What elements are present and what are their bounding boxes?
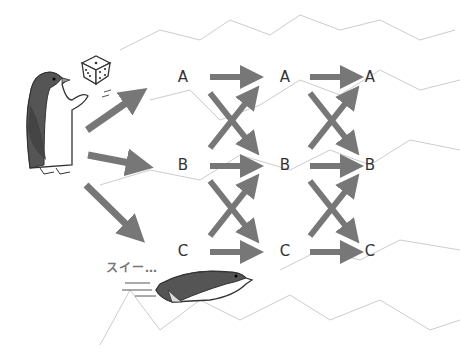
dice-icon: [82, 56, 110, 84]
state-label-b-col2: B: [275, 156, 295, 174]
state-label-b-col1: B: [173, 156, 193, 174]
state-label-a-col2: A: [275, 68, 295, 86]
initial-arrows: [86, 96, 140, 233]
state-label-a-col1: A: [173, 68, 193, 86]
standing-penguin-icon: [27, 72, 88, 174]
state-label-b-col3: B: [360, 156, 380, 174]
sound-effect-text: スイー…: [106, 258, 158, 275]
state-label-c-col2: C: [275, 242, 295, 260]
speed-lines: [122, 283, 156, 296]
sliding-penguin-icon: [156, 271, 252, 302]
state-label-a-col3: A: [360, 68, 380, 86]
motion-lines: [102, 90, 111, 97]
markov-diagram: A B C A B C A B C スイー…: [0, 0, 460, 358]
state-label-c-col3: C: [360, 242, 380, 260]
diagram-canvas: [0, 0, 460, 358]
state-label-c-col1: C: [173, 242, 193, 260]
